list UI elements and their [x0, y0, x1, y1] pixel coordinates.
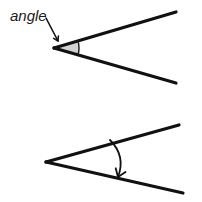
angle-label: angle [10, 7, 47, 24]
background [0, 0, 202, 202]
illustration-canvas: angle [0, 0, 202, 202]
angle-diagram: angle [0, 0, 202, 202]
